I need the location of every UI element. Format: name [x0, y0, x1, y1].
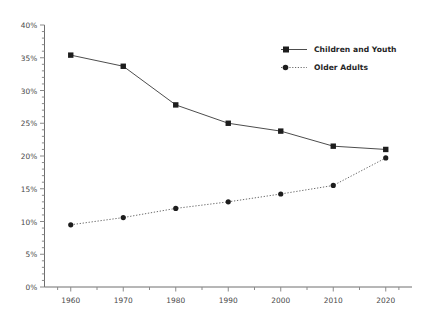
- x-axis-tick-label: 1960: [61, 296, 80, 305]
- data-point-marker: [68, 52, 73, 57]
- legend-marker-square-solid-icon: [281, 45, 307, 54]
- y-axis-tick-label: 25%: [0, 119, 38, 128]
- legend-item-older-adults: Older Adults: [281, 58, 397, 76]
- x-axis-tick-label: 2020: [376, 296, 395, 305]
- data-point-marker: [383, 147, 388, 152]
- y-axis-tick-label: 35%: [0, 53, 38, 62]
- y-axis-tick-label: 0%: [0, 283, 38, 292]
- data-point-marker: [121, 215, 126, 220]
- y-axis-tick-label: 20%: [0, 152, 38, 161]
- legend-marker-circle-dotted-icon: [281, 63, 307, 72]
- data-point-marker: [173, 206, 178, 211]
- legend-item-children-and-youth: Children and Youth: [281, 40, 397, 58]
- data-point-marker: [226, 121, 231, 126]
- x-axis-tick-label: 1970: [114, 296, 133, 305]
- x-axis-tick-label: 1990: [219, 296, 238, 305]
- legend-label-children-and-youth: Children and Youth: [314, 45, 397, 54]
- chart-series-group: [68, 52, 388, 227]
- y-axis-tick-label: 5%: [0, 250, 38, 259]
- data-point-marker: [68, 222, 73, 227]
- data-point-marker: [278, 191, 283, 196]
- x-axis-tick-label: 2010: [324, 296, 343, 305]
- y-axis-tick-label: 30%: [0, 86, 38, 95]
- y-axis-tick-label: 15%: [0, 184, 38, 193]
- line-chart: 0%5%10%15%20%25%30%35%40% 19601970198019…: [0, 0, 430, 326]
- data-point-marker: [278, 128, 283, 133]
- data-point-marker: [173, 102, 178, 107]
- y-axis-tick-label: 40%: [0, 21, 38, 30]
- data-point-marker: [226, 199, 231, 204]
- x-axis-tick-label: 1980: [166, 296, 185, 305]
- legend-label-older-adults: Older Adults: [314, 63, 368, 72]
- data-point-marker: [121, 64, 126, 69]
- data-point-marker: [383, 155, 388, 160]
- data-point-marker: [331, 183, 336, 188]
- chart-legend: Children and Youth Older Adults: [281, 40, 397, 76]
- series-line-1: [71, 158, 386, 225]
- data-point-marker: [331, 143, 336, 148]
- y-axis-tick-label: 10%: [0, 217, 38, 226]
- x-axis-tick-label: 2000: [271, 296, 290, 305]
